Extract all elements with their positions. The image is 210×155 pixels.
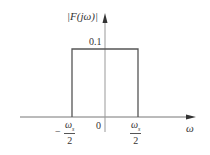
omega-symbol: ω — [131, 119, 138, 130]
pos-half-omega-s-label: ωs 2 — [130, 120, 141, 146]
denominator: 2 — [133, 134, 138, 146]
denominator: 2 — [67, 134, 72, 146]
numerator: ωs — [64, 120, 75, 134]
omega-symbol: ω — [65, 119, 72, 130]
y-axis-arrow-icon — [103, 13, 108, 23]
y-axis-label: |F(jω)| — [67, 11, 98, 22]
subscript-s: s — [72, 126, 74, 132]
x-axis-label: ω — [186, 123, 194, 134]
neg-sign: − — [55, 127, 61, 137]
subscript-s: s — [138, 126, 140, 132]
amplitude-label: 0.1 — [89, 37, 102, 47]
origin-label: 0 — [96, 121, 101, 131]
spectrum-plot — [0, 0, 210, 155]
x-axis-arrow-icon — [186, 115, 196, 120]
neg-half-omega-s-label: ωs 2 — [64, 120, 75, 146]
numerator: ωs — [130, 120, 141, 134]
